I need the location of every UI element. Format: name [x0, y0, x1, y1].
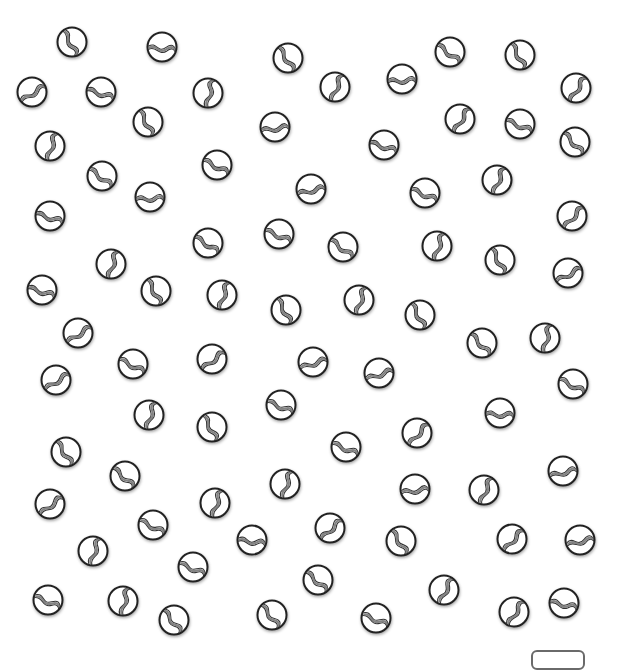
- marble-icon: [268, 467, 302, 501]
- marble-icon: [33, 199, 67, 233]
- marble-icon: [556, 367, 590, 401]
- marble-icon: [503, 107, 537, 141]
- marble-icon: [433, 35, 467, 69]
- marble-icon: [205, 278, 239, 312]
- marble-icon: [483, 396, 517, 430]
- marble-icon: [195, 342, 229, 376]
- marble-icon: [385, 62, 419, 96]
- marble-icon: [108, 459, 142, 493]
- marble-icon: [465, 326, 499, 360]
- marble-icon: [558, 125, 592, 159]
- marble-icon: [359, 601, 393, 635]
- marble-icon: [483, 243, 517, 277]
- marble-icon: [85, 159, 119, 193]
- marble-icon: [258, 110, 292, 144]
- marble-icon: [33, 487, 67, 521]
- marble-icon: [384, 524, 418, 558]
- marble-icon: [264, 388, 298, 422]
- marble-icon: [551, 256, 585, 290]
- marble-icon: [367, 128, 401, 162]
- marble-icon: [301, 563, 335, 597]
- marble-icon: [271, 41, 305, 75]
- marble-icon: [342, 283, 376, 317]
- marble-icon: [296, 345, 330, 379]
- marble-icon: [15, 75, 49, 109]
- marble-icon: [94, 247, 128, 281]
- marble-icon: [139, 274, 173, 308]
- marble-icon: [255, 598, 289, 632]
- marble-icon: [503, 38, 537, 72]
- marble-icon: [61, 316, 95, 350]
- marble-icon: [313, 511, 347, 545]
- marble-icon: [76, 534, 110, 568]
- marble-icon: [497, 595, 531, 629]
- marble-icon: [31, 583, 65, 617]
- marble-icon: [176, 550, 210, 584]
- marble-icon: [49, 435, 83, 469]
- marble-icon: [398, 472, 432, 506]
- marble-icon: [546, 454, 580, 488]
- marble-icon: [195, 410, 229, 444]
- marble-icon: [200, 148, 234, 182]
- marble-icon: [235, 523, 269, 557]
- marble-icon: [495, 522, 529, 556]
- marble-icon: [326, 230, 360, 264]
- marble-icon: [133, 180, 167, 214]
- marble-icon: [443, 102, 477, 136]
- marble-icon: [84, 75, 118, 109]
- marble-icon: [33, 129, 67, 163]
- marble-icon: [559, 71, 593, 105]
- marble-icon: [191, 226, 225, 260]
- marble-icon: [55, 25, 89, 59]
- marble-icon: [528, 321, 562, 355]
- marble-icon: [480, 163, 514, 197]
- marble-icon: [400, 416, 434, 450]
- marble-icon: [563, 523, 597, 557]
- marble-icon: [408, 176, 442, 210]
- marble-icon: [191, 76, 225, 110]
- marble-icon: [427, 573, 461, 607]
- marble-icon: [25, 273, 59, 307]
- marble-icon: [420, 229, 454, 263]
- marble-icon: [403, 298, 437, 332]
- marble-icon: [116, 347, 150, 381]
- marble-icon: [329, 430, 363, 464]
- marble-icon: [131, 105, 165, 139]
- marble-icon: [362, 356, 396, 390]
- marble-icon: [132, 398, 166, 432]
- marble-icon: [269, 293, 303, 327]
- marble-icon: [294, 172, 328, 206]
- marble-icon: [157, 603, 191, 637]
- marble-icon: [39, 363, 73, 397]
- marble-icon: [262, 217, 296, 251]
- marble-icon: [547, 586, 581, 620]
- answer-box[interactable]: [531, 650, 585, 670]
- marble-icon: [467, 473, 501, 507]
- marble-icon: [145, 30, 179, 64]
- marble-icon: [106, 584, 140, 618]
- marble-icon: [198, 486, 232, 520]
- marble-icon: [555, 199, 589, 233]
- marble-icon: [136, 508, 170, 542]
- marble-icon: [318, 70, 352, 104]
